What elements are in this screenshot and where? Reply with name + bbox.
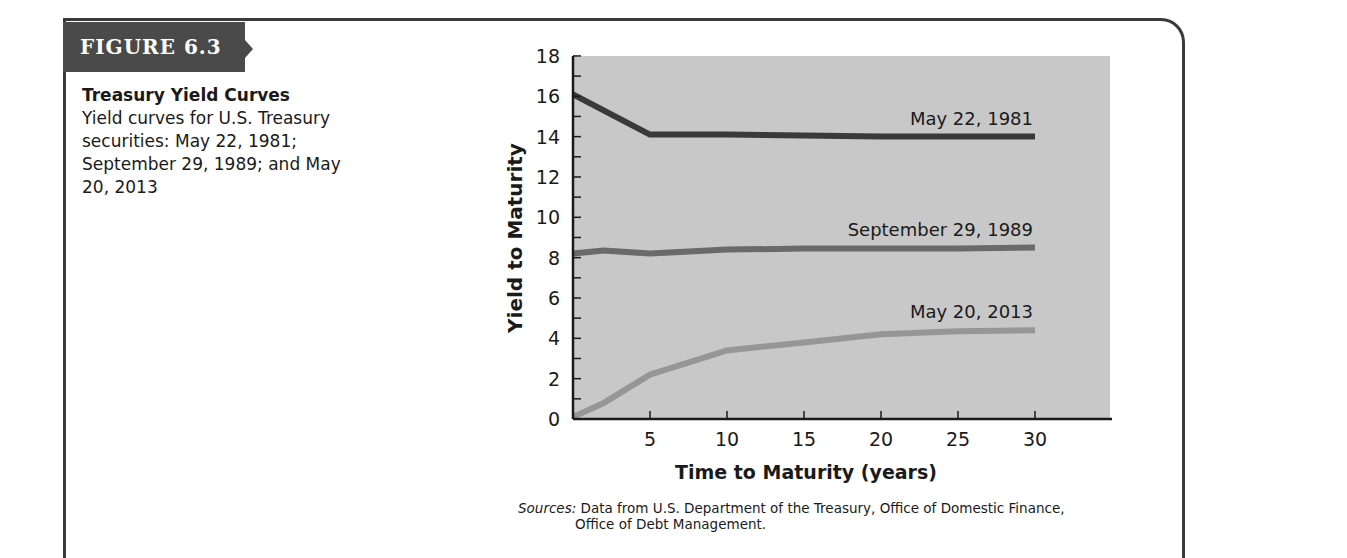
y-tick-label: 16 <box>536 85 560 107</box>
sources-line-2: Office of Debt Management. <box>518 516 1064 532</box>
x-tick-label: 30 <box>1023 428 1047 450</box>
x-tick-label: 5 <box>644 428 656 450</box>
y-tick-label: 2 <box>548 368 560 390</box>
y-tick-label: 4 <box>548 327 560 349</box>
y-tick-label: 0 <box>548 408 560 430</box>
x-tick-label: 15 <box>792 428 816 450</box>
y-tick-label: 12 <box>536 166 560 188</box>
y-axis-label: Yield to Maturity <box>503 143 527 334</box>
sources-line-1: Data from U.S. Department of the Treasur… <box>581 500 1065 516</box>
series-label: May 20, 2013 <box>910 301 1033 322</box>
x-tick-label: 25 <box>946 428 970 450</box>
y-tick-label: 8 <box>548 247 560 269</box>
y-tick-label: 10 <box>536 206 560 228</box>
series-label: May 22, 1981 <box>910 108 1033 129</box>
sources-note: Sources: Data from U.S. Department of th… <box>518 500 1064 532</box>
series-label: September 29, 1989 <box>848 219 1033 240</box>
y-tick-label: 14 <box>536 126 560 148</box>
y-tick-label: 18 <box>536 45 560 67</box>
x-tick-label: 20 <box>869 428 893 450</box>
sources-label: Sources: <box>518 500 576 516</box>
x-tick-label: 10 <box>715 428 739 450</box>
y-tick-label: 6 <box>548 287 560 309</box>
x-axis-label: Time to Maturity (years) <box>675 461 937 483</box>
